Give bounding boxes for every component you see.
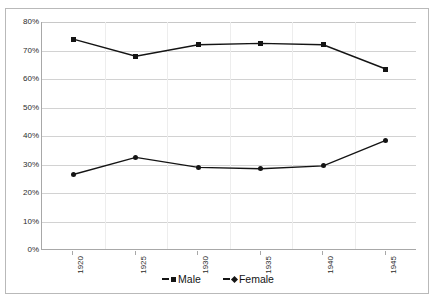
legend-entry-male: Male [162,273,201,285]
legend-entry-female: Female [223,273,274,285]
data-point-female-1920 [71,172,76,177]
x-axis-tick [72,251,73,255]
y-axis-labels: 80%70%60%50%40%30%20%10%0% [6,22,39,250]
plot-area [41,22,416,250]
data-point-male-1920 [71,37,76,42]
legend-line-icon [223,278,230,280]
legend-label: Male [178,273,201,285]
legend-marker-square-icon [171,277,176,282]
x-axis-tick [260,251,261,255]
y-axis-tick-label: 80% [7,18,39,26]
y-axis-tick-label: 20% [7,189,39,197]
x-axis-tick [135,251,136,255]
y-axis-tick-label: 60% [7,75,39,83]
data-point-male-1945 [383,67,388,72]
legend-label: Female [239,273,274,285]
data-point-male-1930 [196,42,201,47]
y-axis-tick-label: 0% [7,246,39,254]
y-axis-tick-label: 10% [7,218,39,226]
legend-line-icon [162,278,169,280]
chart-legend: MaleFemale [6,271,430,287]
series-lines [42,22,417,250]
y-axis-tick-label: 70% [7,47,39,55]
data-point-male-1940 [321,42,326,47]
y-axis-tick-label: 50% [7,104,39,112]
x-axis-tick [385,251,386,255]
data-point-male-1935 [258,41,263,46]
series-line-female [73,140,386,174]
series-line-male [73,39,386,69]
y-axis-tick-label: 40% [7,132,39,140]
chart-frame: 80%70%60%50%40%30%20%10%0% 1920192519301… [5,8,429,294]
x-axis-tick [322,251,323,255]
data-point-female-1930 [196,165,201,170]
legend-marker-diamond-icon [231,275,238,282]
y-axis-tick-label: 30% [7,161,39,169]
x-axis-tick [197,251,198,255]
data-point-male-1925 [133,54,138,59]
